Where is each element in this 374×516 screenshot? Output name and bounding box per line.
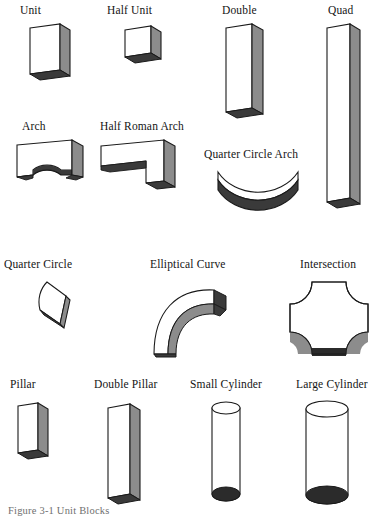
block-label-pillar: Pillar	[10, 378, 36, 390]
block-art-elliptical-curve	[142, 278, 252, 358]
figure-caption: Figure 3-1 Unit Blocks	[8, 505, 110, 516]
block-label-intersection: Intersection	[300, 258, 356, 270]
block-art-small-cylinder	[206, 398, 252, 508]
block-art-large-cylinder	[300, 398, 368, 510]
block-art-half-unit	[122, 22, 172, 68]
block-label-large-cylinder: Large Cylinder	[296, 378, 368, 390]
block-art-half-roman-arch	[98, 137, 188, 193]
block-label-double-pillar: Double Pillar	[94, 378, 158, 390]
block-label-half-roman-arch: Half Roman Arch	[100, 120, 184, 132]
block-art-quarter-circle-arch	[212, 168, 308, 214]
block-art-quarter-circle	[30, 278, 88, 340]
block-art-intersection	[288, 278, 372, 358]
block-label-quad: Quad	[328, 4, 354, 16]
block-art-unit	[26, 22, 78, 84]
block-label-quarter-circle: Quarter Circle	[4, 258, 72, 270]
block-art-quad	[323, 22, 373, 210]
block-art-double-pillar	[104, 398, 152, 508]
block-art-pillar	[14, 398, 62, 466]
block-label-small-cylinder: Small Cylinder	[190, 378, 262, 390]
block-label-arch: Arch	[22, 120, 46, 132]
block-art-double	[222, 22, 276, 120]
unit-blocks-figure: Unit Half Unit Double	[0, 0, 374, 516]
block-label-double: Double	[222, 4, 257, 16]
block-label-quarter-circle-arch: Quarter Circle Arch	[204, 148, 298, 160]
block-label-half-unit: Half Unit	[107, 4, 152, 16]
block-label-unit: Unit	[20, 4, 41, 16]
block-label-elliptical-curve: Elliptical Curve	[150, 258, 226, 270]
block-art-arch	[14, 137, 92, 183]
